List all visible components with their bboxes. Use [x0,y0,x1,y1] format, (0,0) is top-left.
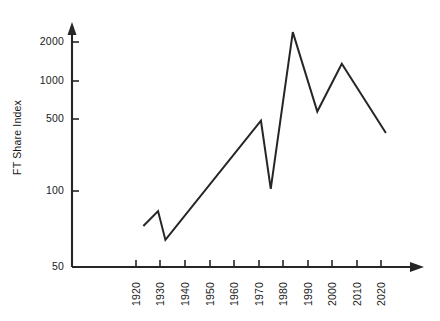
y-tick-label-50: 50 [28,261,64,272]
y-tick-label-2000: 2000 [28,36,64,47]
y-tick-marks [72,42,79,191]
y-tick-label-500: 500 [28,113,64,124]
x-tick-label-1980: 1980 [278,282,289,306]
y-axis-title: FT Share Index [12,100,23,175]
x-tick-label-2000: 2000 [327,282,338,306]
x-axis-arrow-icon [410,262,424,272]
x-tick-label-2020: 2020 [376,282,387,306]
x-tick-label-2010: 2010 [352,282,363,306]
x-tick-label-1950: 1950 [205,282,216,306]
x-tick-label-1920: 1920 [131,282,142,306]
y-axis-arrow-icon [68,22,77,35]
data-series-line [143,32,386,240]
chart-plot-svg [0,0,440,321]
x-tick-label-1970: 1970 [254,282,265,306]
x-tick-label-1940: 1940 [180,282,191,306]
chart-container: 2000 1000 500 100 50 1920 1930 1940 1950… [0,0,440,321]
x-tick-label-1960: 1960 [229,282,240,306]
y-tick-label-100: 100 [28,185,64,196]
x-tick-label-1930: 1930 [155,282,166,306]
x-tick-label-1990: 1990 [303,282,314,306]
y-tick-label-1000: 1000 [28,75,64,86]
